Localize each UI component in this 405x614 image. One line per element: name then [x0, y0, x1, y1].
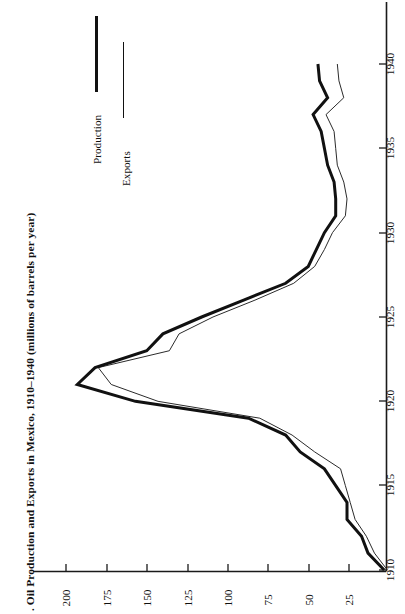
year-tick-label: 1910: [384, 550, 396, 590]
year-tick-label: 1920: [384, 381, 396, 421]
value-tick-label: 25: [343, 580, 355, 614]
line-chart: [0, 0, 405, 614]
value-tick-label: 150: [141, 578, 153, 614]
value-tick-label: 200: [60, 578, 72, 614]
year-tick-label: 1915: [384, 465, 396, 505]
year-tick-label: 1930: [384, 213, 396, 253]
year-tick-label: 1935: [384, 128, 396, 168]
value-axis-ticks: [66, 564, 349, 571]
value-tick-label: 125: [182, 578, 194, 614]
year-tick-label: 1940: [384, 44, 396, 84]
series-line-exports: [98, 64, 387, 570]
legend-label-exports: Exports: [120, 106, 132, 186]
legend-swatch-production: [95, 16, 98, 92]
legend-label-production: Production: [91, 84, 103, 164]
value-tick-label: 175: [101, 578, 113, 614]
value-tick-label: 50: [303, 580, 315, 614]
value-tick-label: 100: [222, 578, 234, 614]
year-tick-label: 1925: [384, 297, 396, 337]
value-tick-label: 75: [262, 580, 274, 614]
figure-container: . Oil Production and Exports in Mexico, …: [0, 0, 405, 614]
